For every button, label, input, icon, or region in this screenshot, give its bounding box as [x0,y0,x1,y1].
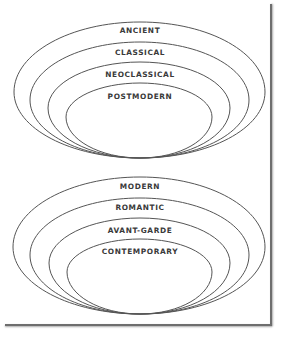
ring-group-lower: MODERNROMANTICAVANT-GARDECONTEMPORARY [13,177,265,314]
ring-romantic [30,198,249,314]
ring-label: CONTEMPORARY [102,247,178,256]
ring-label: ANCIENT [120,26,161,35]
ring-group-upper: ANCIENTCLASSICALNEOCLASSICALPOSTMODERN [14,22,265,158]
nested-rings-diagram: ANCIENTCLASSICALNEOCLASSICALPOSTMODERNMO… [0,0,282,337]
ring-label: MODERN [120,182,160,191]
ring-label: AVANT-GARDE [108,226,173,235]
ring-label: POSTMODERN [108,92,173,101]
ring-label: ROMANTIC [115,203,164,212]
ring-label: NEOCLASSICAL [105,70,175,79]
ring-label: CLASSICAL [115,48,165,57]
